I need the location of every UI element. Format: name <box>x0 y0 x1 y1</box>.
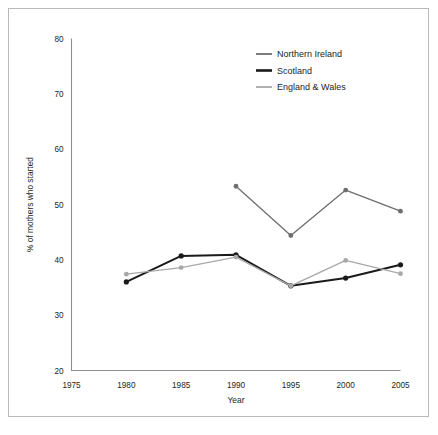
data-point-marker <box>179 253 184 258</box>
series-line <box>126 255 400 286</box>
y-tick-label: 40 <box>54 256 64 265</box>
data-point-marker <box>288 283 293 288</box>
y-tick-label: 20 <box>54 367 64 376</box>
legend-label: Northern Ireland <box>277 49 342 59</box>
data-point-marker <box>234 255 239 260</box>
legend-item[interactable]: Northern Ireland <box>256 49 342 59</box>
data-point-marker <box>124 272 129 277</box>
series-scotland <box>124 252 403 288</box>
x-tick-label: 1985 <box>172 381 191 390</box>
x-tick-label: 1980 <box>117 381 136 390</box>
data-point-marker <box>124 279 129 284</box>
line-chart: 2030405060708019751980198519901995200020… <box>0 0 438 435</box>
x-tick-label: 1990 <box>227 381 246 390</box>
x-tick-label: 1995 <box>282 381 301 390</box>
series-england-wales <box>124 255 403 289</box>
data-point-marker <box>234 184 239 189</box>
data-point-marker <box>398 271 403 276</box>
data-point-marker <box>343 275 348 280</box>
data-point-marker <box>179 265 184 270</box>
legend-item[interactable]: Scotland <box>256 66 312 76</box>
y-tick-label: 80 <box>54 35 64 44</box>
y-tick-label: 50 <box>54 201 64 210</box>
x-tick-label: 1975 <box>62 381 81 390</box>
y-tick-label: 70 <box>54 90 64 99</box>
x-tick-label: 2000 <box>337 381 356 390</box>
chart-figure: 2030405060708019751980198519901995200020… <box>0 0 438 435</box>
x-tick-label: 2005 <box>391 381 410 390</box>
data-point-marker <box>343 258 348 263</box>
series-northern-ireland <box>234 184 403 238</box>
y-tick-label: 60 <box>54 145 64 154</box>
legend-item[interactable]: England & Wales <box>256 82 346 92</box>
legend-label: England & Wales <box>277 82 346 92</box>
y-axis-title: % of mothers who started <box>25 157 35 252</box>
axis-lines <box>72 39 401 371</box>
data-point-marker <box>343 188 348 193</box>
data-point-marker <box>398 209 403 214</box>
y-tick-label: 30 <box>54 311 64 320</box>
data-point-marker <box>288 233 293 238</box>
legend-label: Scotland <box>277 66 312 76</box>
x-axis-title: Year <box>228 395 245 405</box>
data-point-marker <box>398 262 403 267</box>
series-line <box>236 186 401 235</box>
